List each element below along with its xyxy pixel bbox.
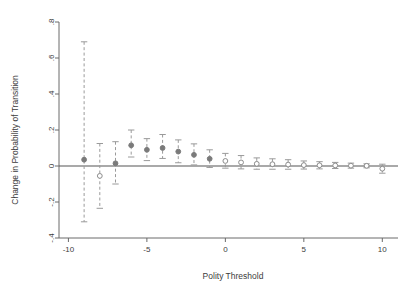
estimate-marker <box>301 163 306 168</box>
x-tick-label: 0 <box>223 245 228 254</box>
y-tick-label: .8 <box>47 18 56 25</box>
estimate-marker <box>144 147 149 152</box>
y-tick-label: -.4 <box>47 233 56 243</box>
y-tick-label: .2 <box>47 126 56 133</box>
estimate-marker <box>192 152 197 157</box>
y-tick-label: 0 <box>47 163 56 168</box>
estimate-marker <box>270 162 275 167</box>
estimate-marker <box>113 161 118 166</box>
estimate-marker <box>207 156 212 161</box>
data-point-group <box>363 163 369 168</box>
x-tick-label: -10 <box>63 245 75 254</box>
y-tick-label: .6 <box>47 54 56 61</box>
estimate-marker <box>82 157 87 162</box>
estimate-marker <box>239 160 244 165</box>
data-point-group <box>348 163 354 168</box>
estimate-marker <box>333 163 338 168</box>
x-tick-label: 10 <box>378 245 387 254</box>
estimate-marker <box>317 163 322 168</box>
estimate-marker <box>254 161 259 166</box>
chart-background <box>0 0 405 302</box>
estimate-marker <box>380 166 385 171</box>
estimate-marker <box>160 146 165 151</box>
y-tick-label: -.2 <box>47 197 56 207</box>
estimate-marker <box>286 162 291 167</box>
estimate-marker <box>176 149 181 154</box>
estimate-marker <box>349 163 354 168</box>
y-tick-label: .4 <box>47 90 56 97</box>
y-axis-title: Change in Probability of Transition <box>10 75 20 205</box>
x-tick-label: -5 <box>143 245 151 254</box>
estimate-marker <box>223 159 228 164</box>
estimate-marker <box>97 174 102 179</box>
chart-figure: -.4-.20.2.4.6.8-10-50510 Change in Proba… <box>0 0 405 302</box>
x-axis-title: Polity Threshold <box>203 271 264 281</box>
x-tick-label: 5 <box>302 245 307 254</box>
estimate-marker <box>364 163 369 168</box>
estimate-marker <box>129 143 134 148</box>
